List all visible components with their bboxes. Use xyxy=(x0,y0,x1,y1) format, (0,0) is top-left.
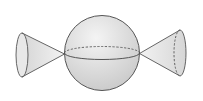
left-cone-base xyxy=(16,33,28,77)
sphere-with-cones-diagram xyxy=(0,0,203,101)
sphere xyxy=(65,16,140,91)
sphere-outline xyxy=(65,16,140,91)
